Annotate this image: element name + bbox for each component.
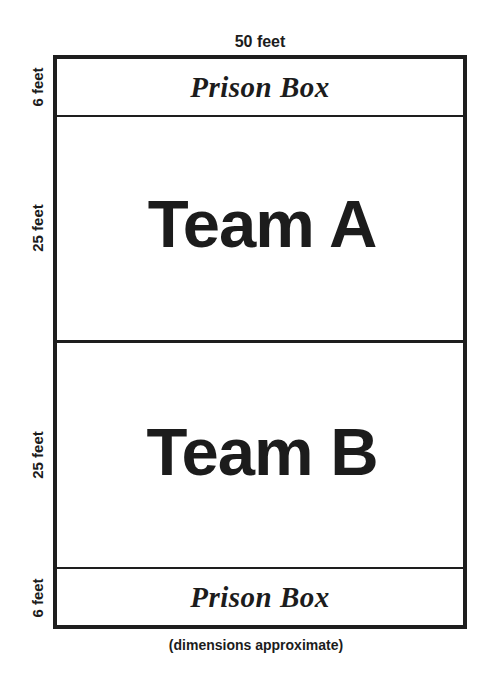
team-b-zone: Team B [57,343,463,569]
dimensions-caption: (dimensions approximate) [0,636,487,654]
prison-box-bottom-depth-label: 6 feet [30,578,46,617]
team-b-depth-label: 25 feet [30,431,46,479]
team-b-label: Team B [146,413,377,490]
team-a-depth-label: 25 feet [30,204,46,252]
prison-box-bottom-label: Prison Box [190,581,330,614]
prison-box-top: Prison Box [57,59,463,117]
team-a-zone: Team A [57,117,463,343]
prison-box-top-label: Prison Box [190,71,330,104]
playing-field: Prison Box Team A Team B Prison Box [53,55,467,629]
prison-box-top-depth-label: 6 feet [30,67,46,106]
prison-box-bottom: Prison Box [57,569,463,625]
width-dimension-label: 50 feet [0,32,487,52]
team-a-label: Team A [148,185,377,262]
